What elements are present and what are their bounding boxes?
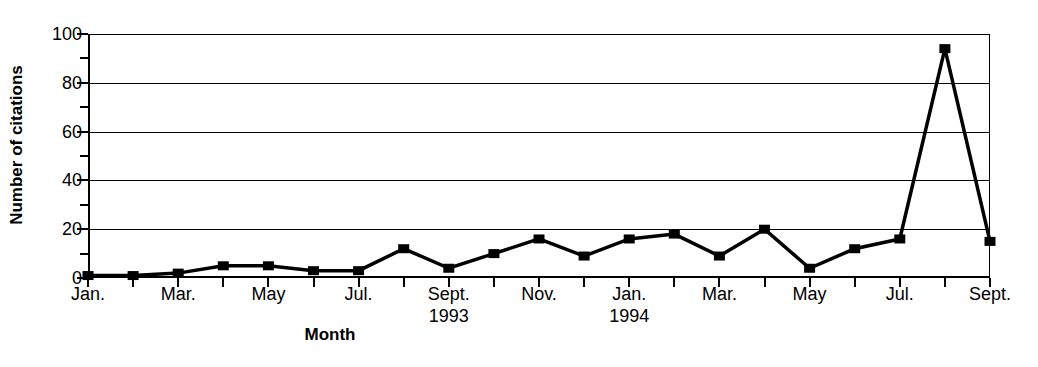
y-axis-tick-labels: 020406080100 [30,0,86,300]
citations-line-chart: Number of citations 020406080100 Jan.Mar… [0,0,1038,367]
x-tick-label: Jul. [345,283,373,305]
data-point-marker [353,266,364,275]
x-tick-label: May [251,283,285,305]
gridline-100 [88,34,990,35]
data-point-marker [849,244,860,253]
data-point-marker [173,269,184,278]
x-tick-month: May [793,284,827,304]
data-point-marker [398,244,409,253]
y-tick-major-40 [77,179,88,181]
x-axis-title: Month [0,325,660,345]
y-axis-title-text: Number of citations [7,65,27,225]
x-tick-label: Jan. [71,283,105,305]
data-point-marker [263,261,274,270]
data-point-marker [534,234,545,243]
y-axis-title: Number of citations [2,0,32,290]
x-tick-label: Mar. [702,283,737,305]
data-point-marker [624,234,635,243]
x-tick-year: 1993 [428,305,470,327]
y-tick-minor-90 [80,57,88,59]
y-tick-minor-10 [80,253,88,255]
data-point-marker [669,230,680,239]
data-point-marker [714,252,725,261]
data-point-marker [488,249,499,258]
data-point-marker [939,44,950,53]
gridline-60 [88,132,990,133]
y-tick-major-60 [77,131,88,133]
plot-area [88,34,990,278]
x-tick-year: 1994 [609,305,649,327]
x-tick-month: May [251,284,285,304]
x-tick-month: Jan. [612,284,646,304]
x-tick-month: Mar. [702,284,737,304]
y-tick-minor-70 [80,106,88,108]
x-tick-label: Jul. [886,283,914,305]
x-tick-label: Sept.1993 [428,283,470,327]
data-point-marker [218,261,229,270]
x-tick-month: Sept. [428,284,470,304]
data-series-line [88,34,990,278]
x-tick-month: Sept. [969,284,1011,304]
data-point-marker [894,234,905,243]
data-point-marker [804,264,815,273]
x-tick-label: Jan.1994 [609,283,649,327]
y-tick-major-20 [77,228,88,230]
y-tick-major-100 [77,33,88,35]
y-tick-minor-30 [80,204,88,206]
data-point-marker [579,252,590,261]
x-tick-month: Mar. [161,284,196,304]
x-tick-month: Jul. [345,284,373,304]
x-tick-label: May [793,283,827,305]
x-tick-label: Sept. [969,283,1011,305]
data-point-marker [443,264,454,273]
y-tick-major-80 [77,82,88,84]
data-point-marker [985,237,996,246]
x-tick-month: Nov. [521,284,557,304]
x-tick-label: Mar. [161,283,196,305]
gridline-40 [88,180,990,181]
y-tick-minor-50 [80,155,88,157]
gridline-20 [88,229,990,230]
data-point-marker [308,266,319,275]
gridline-80 [88,83,990,84]
x-tick-label: Nov. [521,283,557,305]
x-tick-month: Jan. [71,284,105,304]
x-tick-month: Jul. [886,284,914,304]
